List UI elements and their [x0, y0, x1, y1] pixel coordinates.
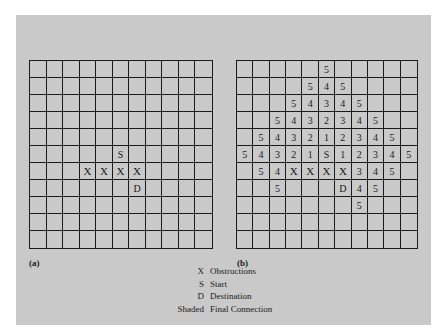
- grid-cell: [384, 95, 400, 112]
- grid-cell: [96, 95, 113, 112]
- distance-cell: 5: [352, 95, 368, 112]
- grid-cell: [270, 231, 286, 248]
- distance-cell: 5: [352, 197, 368, 214]
- distance-cell: 1: [319, 129, 335, 146]
- grid-cell: [286, 197, 302, 214]
- distance-cell: 5: [335, 78, 351, 95]
- grid-cell: [96, 214, 113, 231]
- grid-cell: [63, 112, 80, 129]
- grid-cell: [179, 61, 196, 78]
- grid-cell: [179, 214, 196, 231]
- grid-cell: [195, 112, 212, 129]
- grid-a: SXXXXD: [29, 60, 213, 249]
- obstruction-cell: X: [335, 163, 351, 180]
- grid-cell: [96, 180, 113, 197]
- grid-cell: [30, 95, 47, 112]
- grid-cell: [253, 180, 269, 197]
- grid-cell: [368, 231, 384, 248]
- distance-cell: 3: [368, 146, 384, 163]
- distance-cell: 5: [253, 163, 269, 180]
- grid-cell: [129, 231, 146, 248]
- grid-cell: [146, 61, 163, 78]
- grid-cell: [30, 163, 47, 180]
- grid-cell: [179, 112, 196, 129]
- grid-cell: [237, 78, 253, 95]
- distance-cell: 2: [352, 146, 368, 163]
- grid-cell: [146, 129, 163, 146]
- grid-cell: [253, 95, 269, 112]
- distance-cell: 5: [384, 129, 400, 146]
- grid-cell: [195, 163, 212, 180]
- grid-cell: [302, 197, 318, 214]
- grid-cell: [286, 180, 302, 197]
- grid-cell: [162, 214, 179, 231]
- grid-cell: [30, 197, 47, 214]
- grid-cell: [179, 197, 196, 214]
- grid-cell: [384, 180, 400, 197]
- distance-cell: 5: [401, 146, 417, 163]
- start-cell: S: [113, 146, 130, 163]
- legend-item-final-connection: Shaded Final Connection: [140, 303, 272, 316]
- distance-cell: 4: [270, 163, 286, 180]
- distance-cell: 4: [286, 112, 302, 129]
- grid-cell: [162, 112, 179, 129]
- grid-cell: [47, 197, 64, 214]
- grid-cell: [47, 214, 64, 231]
- grid-cell: [30, 146, 47, 163]
- grid-cell: [113, 231, 130, 248]
- grid-cell: [146, 231, 163, 248]
- distance-cell: 4: [302, 95, 318, 112]
- grid-cell: [253, 214, 269, 231]
- grid-cell: [63, 231, 80, 248]
- grid-cell: [384, 78, 400, 95]
- legend-item-destination: D Destination: [140, 290, 272, 303]
- grid-cell: [162, 231, 179, 248]
- grid-cell: [179, 78, 196, 95]
- grid-cell: [47, 146, 64, 163]
- distance-cell: 5: [286, 95, 302, 112]
- grid-cell: [162, 129, 179, 146]
- grid-cell: [286, 78, 302, 95]
- grid-cell: [63, 129, 80, 146]
- grid-cell: [368, 95, 384, 112]
- grid-cell: [270, 214, 286, 231]
- distance-cell: 4: [335, 95, 351, 112]
- grid-cell: [129, 61, 146, 78]
- grid-cell: [335, 197, 351, 214]
- distance-cell: 3: [270, 146, 286, 163]
- distance-cell: 4: [368, 163, 384, 180]
- grid-cell: [80, 112, 97, 129]
- grid-cell: [368, 197, 384, 214]
- grid-cell: [80, 180, 97, 197]
- grid-cell: [335, 61, 351, 78]
- grid-cell: [113, 180, 130, 197]
- grid-cell: [30, 78, 47, 95]
- grid-cell: [286, 231, 302, 248]
- grid-cell: [63, 146, 80, 163]
- grid-cell: [195, 146, 212, 163]
- distance-cell: 5: [368, 180, 384, 197]
- grid-cell: [146, 197, 163, 214]
- grid-cell: [195, 231, 212, 248]
- distance-cell: 4: [253, 146, 269, 163]
- distance-cell: 2: [302, 129, 318, 146]
- grid-cell: [253, 78, 269, 95]
- grid-cell: [146, 163, 163, 180]
- obstruction-cell: X: [96, 163, 113, 180]
- grid-cell: [30, 214, 47, 231]
- grid-cell: [162, 163, 179, 180]
- grid-cell: [47, 61, 64, 78]
- distance-cell: 3: [319, 95, 335, 112]
- legend-symbol: S: [140, 278, 210, 291]
- grid-cell: [146, 78, 163, 95]
- grid-cell: [30, 129, 47, 146]
- grid-cell: [368, 214, 384, 231]
- grid-cell: [129, 112, 146, 129]
- grid-cell: [335, 231, 351, 248]
- grid-cell: [47, 163, 64, 180]
- grid-cell: [253, 112, 269, 129]
- grid-cell: [63, 180, 80, 197]
- obstruction-cell: X: [286, 163, 302, 180]
- distance-cell: 4: [270, 129, 286, 146]
- grid-cell: [179, 129, 196, 146]
